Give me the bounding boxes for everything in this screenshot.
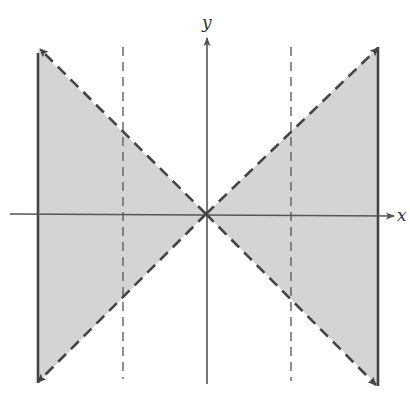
inequality-graph: y x (0, 0, 410, 395)
y-axis-label: y (201, 12, 212, 32)
left-shaded-region (38, 49, 206, 383)
x-axis-label: x (397, 205, 407, 225)
